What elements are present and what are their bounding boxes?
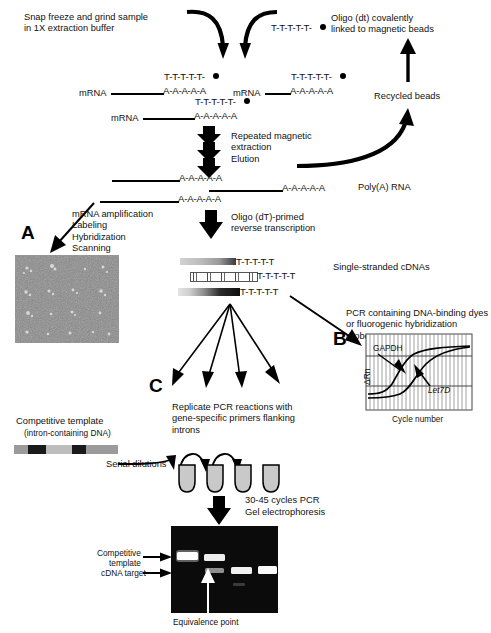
t-run-3: T-T-T-T-T- <box>195 96 236 107</box>
recycled-beads-arrow <box>395 38 421 82</box>
panel-letter-b: B <box>333 328 347 350</box>
panel-letter-c: C <box>149 375 163 397</box>
magnetic-bead-2 <box>340 73 346 79</box>
top-curved-arrows <box>185 6 295 66</box>
polya-strand-1 <box>112 180 180 182</box>
amplification-steps-label: mRNA amplification Labeling Hybridizatio… <box>72 209 153 255</box>
gapdh-curve-label: GAPDH <box>373 343 403 353</box>
cdna-bar-3 <box>178 288 240 296</box>
mrna-label-3: mRNA <box>111 113 138 124</box>
fan-arrows-to-panel-c <box>160 304 300 390</box>
magnetic-bead-3 <box>244 98 250 104</box>
oligo-dt-t-run-top: T-T-T-T-T- <box>271 22 312 33</box>
realtime-pcr-plot: GAPDH Let7D <box>366 334 472 410</box>
competitive-template-subtitle: (intron-containing DNA) <box>24 428 111 438</box>
cycles-pcr-label: 30-45 cycles PCR <box>245 495 319 506</box>
polya-a-run-3: A-A-A-A-A <box>178 193 221 204</box>
single-stranded-cdna-label: Single-stranded cDNAs <box>333 262 430 273</box>
cdna-t-tail-1: T-T-T-T-T <box>236 256 274 267</box>
cdna-bar-1 <box>180 258 236 265</box>
gel-electrophoresis-label: Gel electrophoresis <box>245 507 325 518</box>
a-run-2: A-A-A-A-A <box>290 85 333 96</box>
snap-freeze-label: Snap freeze and grind sample in 1X extra… <box>24 12 148 35</box>
to-gel-arrow <box>206 496 232 526</box>
mrna-strand-1 <box>111 93 164 95</box>
gel-competitive-template-arrow <box>143 551 173 563</box>
t-run-2: T-T-T-T-T- <box>291 71 332 82</box>
let7d-curve-label: Let7D <box>428 385 450 395</box>
recycled-beads-curve <box>297 104 417 168</box>
pcr-tube-2 <box>205 465 225 493</box>
mrna-strand-3 <box>143 118 195 120</box>
mrna-label-1: mRNA <box>79 88 106 99</box>
reverse-transcription-arrow <box>198 210 224 240</box>
pcr-tube-4 <box>261 465 281 493</box>
magnetic-bead-top <box>320 24 326 30</box>
panel-letter-a: A <box>21 222 35 244</box>
cdna-bar-2 <box>190 272 258 282</box>
a-run-3: A-A-A-A-A <box>194 110 237 121</box>
oligo-dt-primed-label: Oligo (dT)-primed reverse transcription <box>231 212 315 235</box>
mrna-strand-2 <box>265 93 291 95</box>
cdna-t-tail-3: T-T-T-T-T <box>240 286 278 297</box>
repeated-extraction-arrows <box>197 126 227 178</box>
a-run-1: A-A-A-A-A <box>163 85 206 96</box>
competitive-template-bar <box>14 445 118 454</box>
gel-cdna-target-label: cDNA target <box>101 568 146 578</box>
competitive-template-title: Competitive template <box>16 416 103 427</box>
gel-competitive-template-label: Competitive template <box>97 548 141 568</box>
polya-a-run-2: A-A-A-A-A <box>282 182 325 193</box>
recycled-beads-label: Recycled beads <box>374 91 440 102</box>
elution-label: Elution <box>231 154 259 165</box>
gel-electrophoresis-image <box>171 526 278 613</box>
equivalence-point-arrow <box>200 565 216 613</box>
pcr-tube-3 <box>233 465 253 493</box>
polya-strand-3 <box>100 201 179 203</box>
microarray-scan-image <box>15 255 119 343</box>
replicate-pcr-label: Replicate PCR reactions with gene-specif… <box>172 402 295 436</box>
oligo-dt-beads-label: Oligo (dt) covalently linked to magnetic… <box>331 13 434 36</box>
polya-strand-2 <box>209 190 283 192</box>
polya-a-run-1: A-A-A-A-A <box>179 172 222 183</box>
equivalence-point-label: Equivalence point <box>173 617 239 627</box>
magnetic-bead-1 <box>213 73 219 79</box>
gel-cdna-target-arrow <box>143 567 173 579</box>
y-axis-label: ΔRn <box>362 368 372 385</box>
t-run-1: T-T-T-T-T- <box>164 71 205 82</box>
cdna-t-tail-2: T-T-T-T-T <box>257 270 295 281</box>
polya-rna-label: Poly(A) RNA <box>358 182 411 193</box>
pcr-tube-1 <box>177 465 197 493</box>
x-axis-label: Cycle number <box>392 414 443 424</box>
